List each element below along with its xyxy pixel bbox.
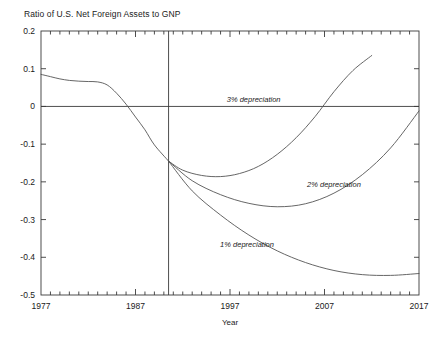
y-axis-tick-label: 0.2 (23, 26, 35, 36)
chart-plot-area: 0.20.10-0.1-0.2-0.3-0.4-0.51977198719972… (0, 0, 439, 337)
x-axis-tick-label: 1977 (32, 301, 51, 311)
y-axis-tick-label: 0 (30, 101, 35, 111)
y-axis-tick-label: -0.4 (20, 252, 35, 262)
y-axis-tick-label: -0.5 (20, 290, 35, 300)
x-axis-tick-label: 2007 (315, 301, 334, 311)
x-axis-tick-label: 1987 (126, 301, 145, 311)
series-line-1-depreciation (169, 161, 419, 275)
series-line-historical (41, 74, 169, 161)
chart-container: Ratio of U.S. Net Foreign Assets to GNP … (0, 0, 439, 337)
series-annotation: 3% depreciation (227, 95, 281, 104)
y-axis-tick-label: -0.3 (20, 215, 35, 225)
x-axis-title: Year (222, 318, 239, 327)
x-axis-tick-label: 1997 (221, 301, 240, 311)
series-annotation: 2% depreciation (306, 180, 361, 189)
series-annotation: 1% depreciation (220, 240, 274, 249)
series-line-3-depreciation (169, 56, 372, 177)
plot-frame (41, 31, 419, 295)
y-axis-tick-label: -0.1 (20, 139, 35, 149)
y-axis-tick-label: 0.1 (23, 64, 35, 74)
series-line-2-depreciation (169, 111, 419, 207)
x-axis-tick-label: 2017 (410, 301, 429, 311)
y-axis-tick-label: -0.2 (20, 177, 35, 187)
